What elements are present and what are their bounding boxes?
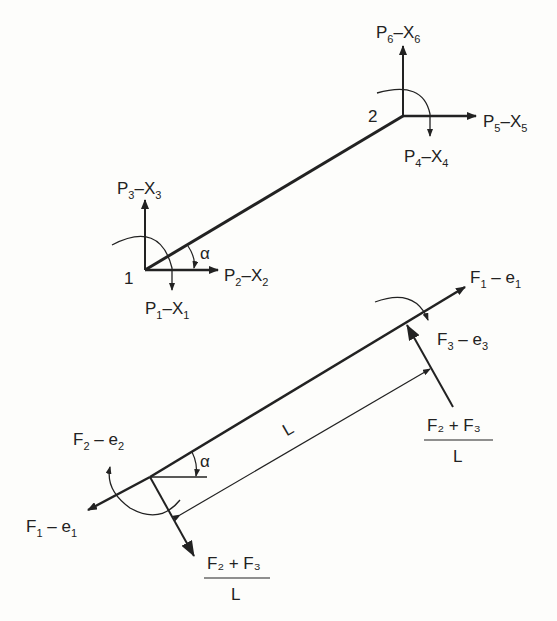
p6-x6-label: P6–X6 bbox=[376, 23, 420, 45]
node-2-label: 2 bbox=[368, 107, 377, 126]
alpha-arc-bottom bbox=[192, 452, 197, 476]
structural-diagram: α 1 P3–X3 P2–X2 P1–X1 2 P6–X6 P5–X5 P4–X… bbox=[0, 0, 557, 621]
f1-e1-right-label: F1 – e1 bbox=[470, 268, 521, 290]
shear-fraction-right: F₂ + F₃ L bbox=[424, 416, 493, 466]
f2-moment-arc bbox=[109, 467, 180, 515]
alpha-label-bottom: α bbox=[200, 452, 210, 471]
shear-fraction-left: F₂ + F₃ L bbox=[204, 554, 270, 604]
f2-e2-label: F2 – e2 bbox=[73, 430, 124, 452]
p1-x1-label: P1–X1 bbox=[145, 299, 189, 321]
svg-text:F₂ + F₃: F₂ + F₃ bbox=[207, 554, 261, 573]
free-body-element: α L F2 – e2 F1 – e1 F1 – e1 F3 – e3 F₂ +… bbox=[26, 268, 521, 604]
member-axis-right bbox=[150, 287, 465, 477]
p5-x5-label: P5–X5 bbox=[483, 112, 527, 134]
global-element: α 1 P3–X3 P2–X2 P1–X1 2 P6–X6 P5–X5 P4–X… bbox=[112, 23, 527, 321]
node-2: 2 P6–X6 P5–X5 P4–X4 bbox=[368, 23, 527, 169]
p3-x3-label: P3–X3 bbox=[117, 179, 161, 201]
member-line bbox=[145, 116, 403, 270]
p2-x2-label: P2–X2 bbox=[224, 266, 268, 288]
p1-moment-arc bbox=[112, 236, 172, 290]
shear-arrow-left bbox=[150, 477, 194, 556]
alpha-label: α bbox=[200, 244, 210, 263]
node-1-label: 1 bbox=[124, 269, 133, 288]
node-1: α 1 P3–X3 P2–X2 P1–X1 bbox=[112, 179, 268, 321]
length-dimension bbox=[180, 369, 430, 515]
svg-text:L: L bbox=[453, 447, 462, 466]
f3-e3-label: F3 – e3 bbox=[437, 330, 488, 352]
length-label: L bbox=[279, 419, 297, 440]
f1-e1-left-label: F1 – e1 bbox=[26, 517, 77, 539]
alpha-arc bbox=[188, 246, 194, 268]
p4-x4-label: P4–X4 bbox=[404, 147, 448, 169]
f3-moment-arc bbox=[375, 297, 428, 320]
svg-text:F₂ + F₃: F₂ + F₃ bbox=[427, 416, 481, 435]
svg-text:L: L bbox=[231, 585, 240, 604]
member-axis bbox=[88, 477, 150, 510]
